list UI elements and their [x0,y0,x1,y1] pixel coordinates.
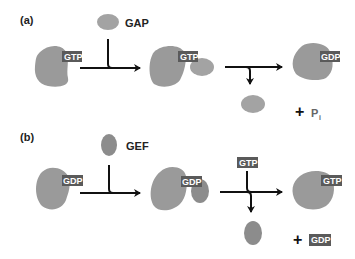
panel-a: (a) GAP GTP GTP GDP + P i [20,14,341,121]
gap-protein [97,14,119,30]
gtpase-cycle-diagram: (a) GAP GTP GTP GDP + P i (b) GEF [0,0,355,259]
panel-b: (b) GEF GDP GDP GTP GTP + GDP [20,131,342,248]
gtp-tag-incoming-text: GTP [239,158,258,168]
gdp-tag-complex-text: GDP [182,177,202,187]
ras-protein-complex-b [151,167,187,210]
plus-sign-b: + [293,231,302,248]
ras-protein-start-b [36,168,70,210]
phosphate-label: P [311,107,318,119]
plus-sign-a: + [295,103,304,120]
gap-leaving-line [246,67,250,84]
gdp-tag-end-text: GDP [321,52,341,62]
panel-b-label: (b) [20,131,34,143]
gef-released [244,221,262,245]
phosphate-subscript: i [319,114,321,121]
gtp-tag-end-text: GTP [323,176,342,186]
gap-joining-line [108,39,112,68]
gdp-tag-start-text: GDP [63,176,83,186]
gef-protein [101,134,117,156]
panel-a-label: (a) [20,14,34,26]
gtp-tag-complex-text: GTP [180,52,199,62]
gdp-tag-released-text: GDP [311,235,331,245]
gef-leaving-line [247,192,251,212]
gef-joining-line [109,165,113,193]
gap-label: GAP [125,17,149,29]
gtp-tag-start-text: GTP [64,52,83,62]
gtp-joining-line [247,171,251,192]
gap-released [241,95,265,113]
gef-label: GEF [126,140,149,152]
